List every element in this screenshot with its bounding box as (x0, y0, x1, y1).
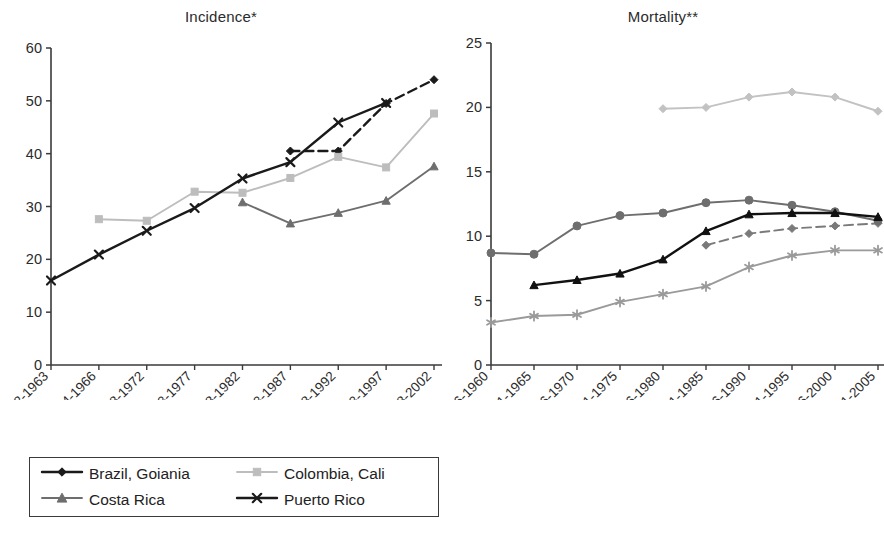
data-point (874, 107, 882, 115)
data-point (191, 204, 199, 212)
incidence-legend-items: Brazil, GoianiaColombia, CaliCosta RicaP… (30, 458, 438, 516)
incidence-legend: Brazil, GoianiaColombia, CaliCosta RicaP… (29, 457, 439, 517)
series-brazil (702, 219, 882, 249)
legend-marker-icon (235, 489, 279, 511)
data-point (788, 88, 796, 96)
data-point (659, 209, 667, 217)
mortality-x-tick-label: 1981-1985 (650, 369, 706, 400)
legend-swatch-icon (235, 463, 279, 481)
data-point (659, 105, 667, 113)
data-point (530, 250, 538, 258)
legend-item[interactable]: Costa Rica (40, 488, 235, 512)
mortality-x-tick-label: 1971-1975 (564, 369, 620, 400)
incidence-x-tick-label: 1993-1997 (330, 369, 386, 400)
incidence-x-tick-label: 1998-2002 (378, 369, 434, 400)
series-costa-rica (238, 162, 438, 227)
data-point (143, 227, 151, 235)
incidence-x-tick-label: 1983-1987 (234, 369, 290, 400)
data-point (431, 110, 438, 117)
series-line (290, 80, 434, 151)
data-point (702, 241, 710, 249)
legend-swatch-icon (40, 463, 84, 481)
mortality-x-tick-label: 1961-1965 (478, 369, 534, 400)
data-point (430, 76, 438, 84)
data-point (745, 93, 753, 101)
legend-item[interactable]: Puerto Rico (235, 488, 430, 512)
data-point (745, 196, 753, 204)
data-point (191, 188, 198, 195)
data-point (143, 217, 150, 224)
incidence-x-tick-label: 1964-1966 (43, 369, 99, 400)
data-point (239, 189, 246, 196)
incidence-y-tick-label: 60 (26, 40, 42, 56)
data-point (487, 249, 495, 257)
legend-swatch-icon (235, 489, 279, 507)
mortality-y-tick-label: 5 (474, 293, 482, 309)
mortality-svg: 05101520251956-19601961-19651966-1970197… (442, 0, 884, 400)
incidence-x-tick-label: 1968-1972 (91, 369, 147, 400)
mortality-y-tick-label: 20 (466, 99, 482, 115)
mortality-y-tick-label: 25 (466, 35, 482, 51)
mortality-x-tick-label: 1956-1960 (442, 369, 491, 400)
legend-marker-icon (235, 463, 279, 485)
mortality-x-tick-label: 1966-1970 (521, 369, 577, 400)
legend-item-label: Costa Rica (89, 492, 165, 508)
legend-swatch-icon (40, 489, 84, 507)
data-point (238, 198, 246, 206)
series-colombia-cali (95, 110, 437, 224)
series-line (663, 92, 878, 111)
mortality-x-tick-label: 1996-2000 (779, 369, 835, 400)
incidence-x-tick-label: 1978-1982 (186, 369, 242, 400)
data-point (95, 216, 102, 223)
data-point (831, 222, 839, 230)
data-point (788, 224, 796, 232)
data-point (287, 174, 294, 181)
incidence-y-tick-label: 10 (26, 304, 42, 320)
series-line (491, 250, 878, 322)
incidence-y-tick-label: 20 (26, 251, 42, 267)
legend-item-label: Puerto Rico (284, 492, 365, 508)
incidence-x-tick-label: 1962-1963 (0, 369, 51, 400)
data-point (702, 199, 710, 207)
legend-item[interactable]: Brazil, Goiania (40, 462, 235, 486)
data-point (831, 93, 839, 101)
mortality-x-tick-label: 1991-1995 (736, 369, 792, 400)
incidence-plot: 01020304050601962-19631964-19661968-1972… (0, 0, 442, 400)
mortality-panel: Mortality** 05101520251956-19601961-1965… (442, 0, 884, 535)
incidence-y-tick-label: 50 (26, 93, 42, 109)
mortality-y-tick-label: 10 (466, 228, 482, 244)
incidence-y-tick-label: 30 (26, 199, 42, 215)
data-point (430, 162, 438, 170)
series-brazil-goiania (286, 76, 438, 155)
mortality-plot: 05101520251956-19601961-19651966-1970197… (442, 0, 884, 400)
incidence-svg: 01020304050601962-19631964-19661968-1972… (0, 0, 442, 400)
incidence-y-tick-label: 40 (26, 146, 42, 162)
legend-item[interactable]: Colombia, Cali (235, 462, 430, 486)
incidence-x-tick-label: 1988-1992 (282, 369, 338, 400)
data-point (95, 251, 103, 259)
figure-root: Incidence* 01020304050601962-19631964-19… (0, 0, 884, 535)
legend-marker-icon (40, 489, 84, 511)
legend-marker-icon (40, 463, 84, 485)
mortality-x-tick-label: 1986-1990 (693, 369, 749, 400)
data-point (383, 164, 390, 171)
data-point (702, 103, 710, 111)
data-point (573, 222, 581, 230)
series-argentina (659, 88, 882, 115)
data-point (745, 230, 753, 238)
incidence-panel: Incidence* 01020304050601962-19631964-19… (0, 0, 442, 535)
legend-item-label: Colombia, Cali (284, 466, 385, 482)
legend-item-label: Brazil, Goiania (89, 466, 190, 482)
data-point (616, 212, 624, 220)
data-point (286, 147, 294, 155)
data-point (335, 153, 342, 160)
mortality-y-tick-label: 15 (466, 164, 482, 180)
mortality-x-tick-label: 1976-1980 (607, 369, 663, 400)
mortality-x-tick-label: 2001-2005 (822, 369, 878, 400)
series-mexico (487, 246, 882, 327)
incidence-x-tick-label: 1973-1977 (138, 369, 194, 400)
